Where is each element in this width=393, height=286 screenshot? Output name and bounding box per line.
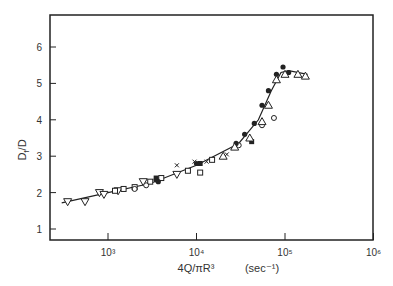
data-points	[64, 64, 310, 205]
plot-frame	[50, 15, 373, 240]
y-tick-label: 5	[36, 78, 42, 89]
y-axis: 123456	[36, 42, 56, 235]
x-tick-label: 10³	[101, 247, 116, 258]
y-tick-label: 4	[36, 115, 42, 126]
x-tick-label: 10⁶	[366, 247, 381, 258]
x-tick-label: 10⁵	[277, 247, 292, 258]
y-tick-label: 3	[36, 151, 42, 162]
x-axis: 10³10⁴10⁵10⁶	[101, 233, 381, 258]
x-axis-title: 4Q/πR³	[178, 262, 215, 274]
y-tick-label: 2	[36, 188, 42, 199]
y-axis-title: Df/D	[16, 139, 31, 160]
chart: 123456 10³10⁴10⁵10⁶ Df/D 4Q/πR³ (sec⁻¹)	[0, 0, 393, 286]
x-tick-label: 10⁴	[189, 247, 204, 258]
y-tick-label: 1	[36, 224, 42, 235]
y-tick-label: 6	[36, 42, 42, 53]
x-axis-units: (sec⁻¹)	[245, 262, 279, 274]
